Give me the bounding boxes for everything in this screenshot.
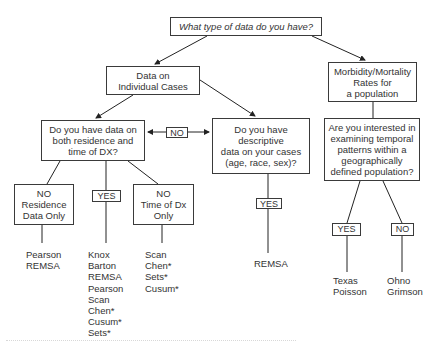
method-item: Scan bbox=[145, 249, 179, 260]
yes-label-temporal: YES bbox=[332, 223, 361, 236]
root-question-box: What type of data do you have? bbox=[170, 17, 322, 36]
methods-temporal-no: Ohno Grimson bbox=[387, 275, 423, 297]
methods-temporal-yes: Texas Poisson bbox=[333, 275, 367, 297]
methods-both: Knox Barton REMSA Pearson Scan Chen* Cus… bbox=[88, 249, 123, 339]
descriptive-question-box: Do you have descriptive data on your cas… bbox=[212, 118, 310, 174]
no-residence-only-box: NO Residence Data Only bbox=[14, 184, 74, 225]
method-item: Sets* bbox=[88, 327, 123, 338]
individual-cases-box: Data on Individual Cases bbox=[106, 66, 200, 95]
method-item: Ohno bbox=[387, 275, 423, 286]
method-item: REMSA bbox=[88, 271, 123, 282]
method-item: Cusum* bbox=[88, 316, 123, 327]
population-rates-box: Morbidity/Mortality Rates for a populati… bbox=[328, 62, 417, 102]
method-item: Texas bbox=[333, 275, 367, 286]
temporal-question-box: Are you interested in examining temporal… bbox=[324, 118, 420, 181]
residence-time-question-box: Do you have data on both residence and t… bbox=[41, 120, 145, 161]
method-item: Pearson bbox=[88, 283, 123, 294]
yes-label-descriptive: YES bbox=[256, 198, 282, 209]
method-item: REMSA bbox=[254, 258, 288, 269]
no-label-temporal: NO bbox=[391, 223, 414, 236]
method-item: Scan bbox=[88, 294, 123, 305]
yes-label-both: YES bbox=[92, 190, 121, 202]
no-time-only-box: NO Time of Dx Only bbox=[133, 184, 194, 225]
method-item: REMSA bbox=[26, 260, 61, 271]
no-label-between: NO bbox=[166, 127, 188, 138]
method-item: Pearson bbox=[26, 249, 61, 260]
clipped-footnote-line bbox=[6, 340, 296, 343]
methods-time-only: Scan Chen* Sets* Cusum* bbox=[145, 249, 179, 294]
method-item: Sets* bbox=[145, 271, 179, 282]
method-item: Cusum* bbox=[145, 283, 179, 294]
method-item: Chen* bbox=[88, 305, 123, 316]
methods-residence-only: Pearson REMSA bbox=[26, 249, 61, 271]
method-item: Poisson bbox=[333, 286, 367, 297]
method-item: Grimson bbox=[387, 286, 423, 297]
method-item: Barton bbox=[88, 260, 123, 271]
methods-descriptive: REMSA bbox=[254, 258, 288, 269]
method-item: Chen* bbox=[145, 260, 179, 271]
method-item: Knox bbox=[88, 249, 123, 260]
